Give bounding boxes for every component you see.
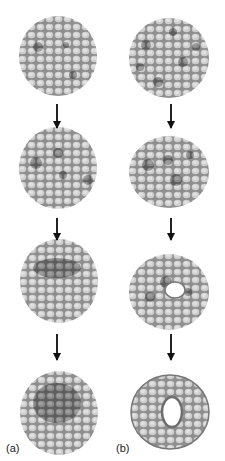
arrow-down-icon <box>56 104 58 128</box>
arrow-down-icon <box>56 334 58 360</box>
disc-b-2 <box>128 135 210 210</box>
label-a: (a) <box>6 442 19 454</box>
arrow-down-icon <box>170 218 172 240</box>
disc-a-2 <box>18 125 98 210</box>
label-b: (b) <box>116 442 129 454</box>
arrow-down-icon <box>170 104 172 128</box>
arrow-down-icon <box>170 334 172 360</box>
arrow-down-icon <box>56 218 58 240</box>
disc-a-3 <box>19 238 99 324</box>
disc-a-4 <box>19 368 99 456</box>
disc-b-4 <box>130 372 212 452</box>
disc-a-1 <box>18 15 98 97</box>
disc-b-1 <box>128 17 210 99</box>
disc-b-3 <box>128 252 210 332</box>
